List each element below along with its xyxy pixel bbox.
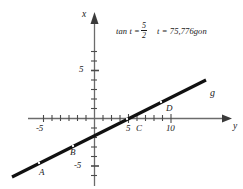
tan-expression: tan t =: [116, 26, 140, 36]
tick-label-y-minus5: -5: [36, 124, 43, 133]
fraction-numerator: 5: [141, 22, 147, 31]
point-label-a: A: [39, 168, 45, 177]
fraction-denominator: 2: [141, 31, 147, 40]
angle-annotation: tan t = 5 2 t = 75,776gon: [116, 22, 207, 40]
line-label-g: g: [210, 88, 215, 98]
point-label-c: C: [136, 124, 142, 133]
point-label-d: D: [166, 104, 173, 113]
tick-label-x-5: 5: [79, 65, 83, 74]
tick-label-y-10: 10: [166, 124, 175, 133]
point-label-b: B: [70, 148, 76, 157]
horizontal-axis-label: y: [233, 122, 237, 132]
fraction-five-halves: 5 2: [141, 22, 147, 40]
tick-label-y-5: 5: [126, 124, 130, 133]
tick-label-x-minus5: -5: [74, 161, 81, 170]
angle-value: t = 75,776gon: [157, 26, 207, 36]
figure-canvas: x y -5 5 10 5 -5 A B C D g tan t = 5 2 t…: [0, 0, 243, 189]
vertical-axis-label: x: [82, 10, 86, 20]
